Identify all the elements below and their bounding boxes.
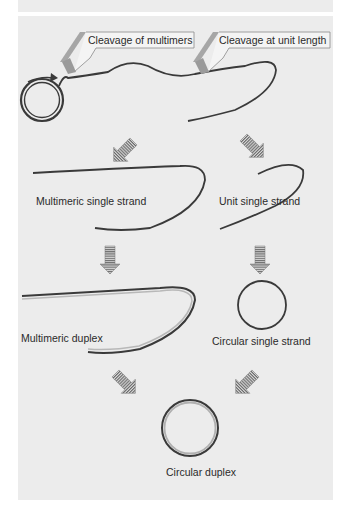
label-multimeric-single-strand: Multimeric single strand <box>36 195 146 207</box>
rolling-circle-template <box>21 73 63 121</box>
arrow-down-left-icon <box>229 366 263 400</box>
arrow-down-right-icon <box>236 130 270 164</box>
arrow-down-right-icon <box>108 366 142 400</box>
label-multimeric-duplex: Multimeric duplex <box>21 332 103 344</box>
callout-cleavage-at-unit-length: Cleavage at unit length <box>193 32 330 74</box>
label-circular-duplex: Circular duplex <box>166 466 237 478</box>
arrow-down-icon <box>250 246 270 274</box>
label-unit-single-strand: Unit single strand <box>219 195 300 207</box>
circular-duplex-circle <box>162 400 218 456</box>
arrow-down-icon <box>100 246 120 274</box>
displaced-strand-tail <box>59 62 276 121</box>
callout-label-unit-length: Cleavage at unit length <box>219 34 327 46</box>
direction-arrowhead-icon <box>50 73 58 82</box>
rolling-circle-diagram: Cleavage of multimers Cleavage at unit l… <box>0 0 346 515</box>
callout-cleavage-of-multimers: Cleavage of multimers <box>60 32 194 74</box>
arrow-down-left-icon <box>107 134 141 168</box>
callout-label-multimers: Cleavage of multimers <box>88 34 192 46</box>
label-circular-single-strand: Circular single strand <box>212 335 311 347</box>
circular-single-strand-circle <box>238 281 286 329</box>
